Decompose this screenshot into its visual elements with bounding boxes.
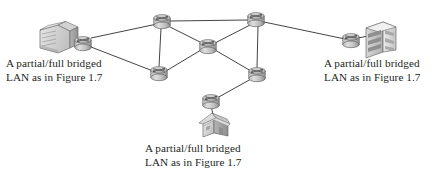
router-center-icon <box>200 40 216 54</box>
link-routertl-routerbl <box>159 28 161 67</box>
network-diagram-figure: A partial/full bridged LAN as in Figure … <box>0 0 433 180</box>
lan-label-right: A partial/full bridged LAN as in Figure … <box>324 57 420 84</box>
lan-building-left-icon <box>40 22 78 54</box>
link-routertr-routerright <box>264 22 345 39</box>
router-bottom-icon <box>203 95 219 109</box>
lan-label-left: A partial/full bridged LAN as in Figure … <box>6 57 102 84</box>
router-right-icon <box>343 34 359 48</box>
router-top-left-icon <box>154 15 170 29</box>
lan-label-left-line2: LAN as in Figure 1.7 <box>6 71 102 85</box>
link-routertr-routerbr <box>257 26 258 68</box>
link-routerc-routertr <box>215 25 250 43</box>
link-routertl-routertr <box>170 20 248 21</box>
lan-building-right-icon <box>366 22 396 58</box>
link-routerc-routerbl <box>166 50 201 71</box>
lan-label-right-line2: LAN as in Figure 1.7 <box>324 71 420 85</box>
link-routerc-routerbr <box>215 50 251 71</box>
router-bottom-right-icon <box>249 68 265 82</box>
lan-label-bottom: A partial/full bridged LAN as in Figure … <box>145 142 241 169</box>
router-bottom-left-icon <box>151 67 167 81</box>
router-top-right-icon <box>248 13 264 27</box>
lan-label-left-line1: A partial/full bridged <box>6 57 102 71</box>
router-left-icon <box>75 37 91 51</box>
lan-label-bottom-line1: A partial/full bridged <box>145 142 241 156</box>
lan-label-right-line1: A partial/full bridged <box>324 57 420 71</box>
link-routerleft-routertl <box>91 24 157 38</box>
lan-label-bottom-line2: LAN as in Figure 1.7 <box>145 156 241 170</box>
lan-house-icon <box>199 113 230 137</box>
link-routerbr-routerbot <box>217 79 251 98</box>
link-routertl-routerc <box>168 26 202 43</box>
